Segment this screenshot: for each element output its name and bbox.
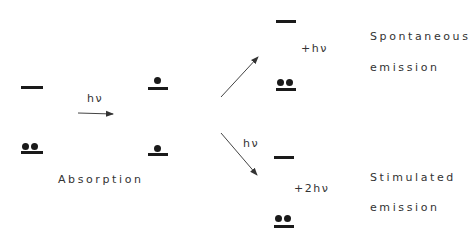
stimulated-incident-label: hν (243, 137, 259, 150)
absorption-caption: Absorption (58, 173, 144, 186)
spontaneous-upper-level (276, 20, 296, 23)
spontaneous-arrow (221, 57, 258, 97)
stimulated-upper-level (274, 156, 294, 159)
initial-upper-level (21, 86, 43, 89)
stimulated-lower-level (274, 225, 294, 228)
electron-dot (154, 77, 161, 84)
initial-lower-level (21, 151, 43, 154)
electron-dot (275, 215, 282, 222)
stimulated-emitted-label: +2hν (294, 182, 329, 195)
excited-upper-level (148, 87, 168, 90)
absorption-photon-label: hν (87, 92, 103, 105)
electron-dot (284, 215, 291, 222)
spontaneous-emitted-label: +hν (301, 42, 328, 55)
spontaneous-caption-line1: Spontaneous (370, 30, 471, 43)
spontaneous-lower-level (276, 88, 296, 91)
stimulated-caption-line2: emission (370, 201, 440, 214)
electron-dot (31, 143, 38, 150)
electron-dot (154, 145, 161, 152)
stimulated-caption-line1: Stimulated (370, 171, 456, 184)
spontaneous-caption-line2: emission (370, 61, 440, 74)
electron-dot (277, 79, 284, 86)
absorption-arrow (78, 113, 113, 114)
excited-lower-level (148, 153, 168, 156)
electron-dot (22, 143, 29, 150)
electron-dot (286, 79, 293, 86)
